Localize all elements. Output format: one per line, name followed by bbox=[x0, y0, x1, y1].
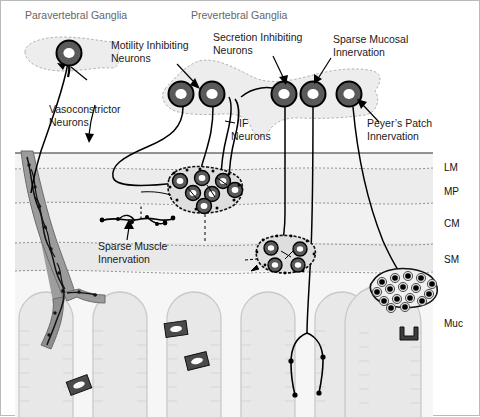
paravertebral-neuron bbox=[57, 41, 82, 78]
layer-label-cm: CM bbox=[444, 218, 460, 229]
label-sparse-muscle-line2: Innervation bbox=[98, 253, 150, 265]
layer-label-sm: SM bbox=[444, 254, 459, 265]
label-vasoconstrictor-line1: Vasoconstrictor bbox=[49, 103, 121, 115]
label-sparse-mucosal-line2: Innervation bbox=[333, 46, 385, 58]
villus bbox=[19, 292, 73, 417]
label-peyers-line1: Peyer’s Patch bbox=[367, 117, 432, 129]
label-sparse-mucosal-line1: Sparse Mucosal bbox=[333, 33, 408, 45]
title-paravertebral: Paravertebral Ganglia bbox=[25, 9, 127, 21]
label-if-line1: IF bbox=[239, 117, 248, 129]
leader-secretion bbox=[273, 56, 283, 77]
label-peyers-line2: Innervation bbox=[367, 130, 419, 142]
anatomy-diagram: Paravertebral Ganglia Prevertebral Gangl… bbox=[1, 1, 480, 417]
label-vasoconstrictor-line2: Neurons bbox=[49, 116, 89, 128]
label-if-line2: Neurons bbox=[231, 130, 271, 142]
label-motility-line2: Neurons bbox=[111, 52, 151, 64]
layer-label-muc: Muc bbox=[444, 318, 463, 329]
label-secretion-line1: Secretion Inhibiting bbox=[213, 31, 302, 43]
label-secretion-line2: Neurons bbox=[213, 44, 253, 56]
title-prevertebral: Prevertebral Ganglia bbox=[191, 9, 287, 21]
label-motility-line1: Motility Inhibiting bbox=[111, 39, 189, 51]
villus bbox=[241, 292, 295, 417]
villus bbox=[93, 292, 147, 417]
layer-label-mp: MP bbox=[444, 186, 459, 197]
layer-label-lm: LM bbox=[444, 162, 458, 173]
label-sparse-muscle-line1: Sparse Muscle bbox=[98, 240, 168, 252]
